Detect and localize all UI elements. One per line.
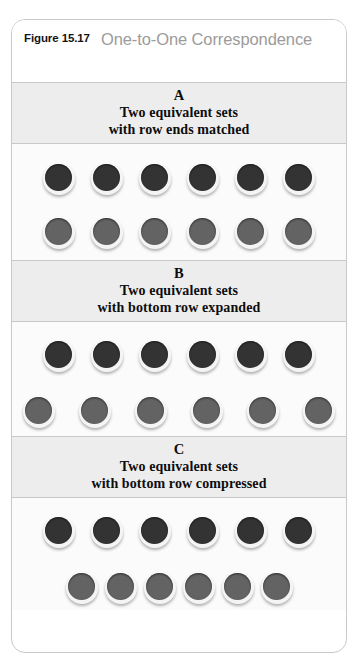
counter-token (187, 340, 219, 372)
figure-section-b: B Two equivalent sets with bottom row ex… (12, 260, 346, 436)
counter-token (91, 217, 123, 249)
counter-token (191, 396, 223, 428)
counter-token (187, 516, 219, 548)
counter-token (43, 516, 75, 548)
counter-token (43, 163, 75, 195)
section-a-tokens (12, 144, 346, 260)
section-b-caption-line1: Two equivalent sets (12, 282, 346, 299)
counter-token (139, 340, 171, 372)
section-c-tokens (12, 498, 346, 610)
section-c-top-row (12, 507, 346, 557)
counter-token (187, 163, 219, 195)
section-a-letter: A (12, 87, 346, 104)
section-a-bottom-row (12, 208, 346, 258)
counter-token (283, 217, 315, 249)
counter-token (91, 163, 123, 195)
counter-token (235, 340, 267, 372)
section-c-bottom-row (12, 563, 346, 613)
counter-token (261, 572, 293, 604)
section-a-top-row (12, 154, 346, 204)
counter-token (79, 396, 111, 428)
section-a-caption-line1: Two equivalent sets (12, 104, 346, 121)
counter-token (91, 340, 123, 372)
counter-token (235, 163, 267, 195)
counter-token (66, 572, 98, 604)
figure-section-c: C Two equivalent sets with bottom row co… (12, 436, 346, 610)
counter-token (43, 340, 75, 372)
counter-token (139, 163, 171, 195)
counter-token (139, 217, 171, 249)
section-c-caption-line1: Two equivalent sets (12, 458, 346, 475)
figure-title-bar: Figure 15.17 One-to-One Correspondence (12, 20, 346, 82)
counter-token (283, 163, 315, 195)
counter-token (144, 572, 176, 604)
counter-token (43, 217, 75, 249)
section-c-caption-line2: with bottom row compressed (12, 475, 346, 492)
counter-token (183, 572, 215, 604)
section-c-header: C Two equivalent sets with bottom row co… (12, 436, 346, 498)
counter-token (235, 516, 267, 548)
figure-card: Figure 15.17 One-to-One Correspondence A… (11, 19, 347, 653)
section-c-letter: C (12, 441, 346, 458)
section-a-header: A Two equivalent sets with row ends matc… (12, 82, 346, 144)
figure-section-a: A Two equivalent sets with row ends matc… (12, 82, 346, 260)
counter-token (247, 396, 279, 428)
counter-token (283, 516, 315, 548)
counter-token (187, 217, 219, 249)
section-b-top-row (12, 331, 346, 381)
section-a-caption-line2: with row ends matched (12, 121, 346, 138)
page-title: One-to-One Correspondence (101, 29, 312, 49)
counter-token (135, 396, 167, 428)
figure-number: Figure 15.17 (24, 29, 90, 44)
section-b-tokens (12, 322, 346, 436)
section-b-header: B Two equivalent sets with bottom row ex… (12, 260, 346, 322)
counter-token (23, 396, 55, 428)
counter-token (91, 516, 123, 548)
section-b-letter: B (12, 265, 346, 282)
counter-token (303, 396, 335, 428)
section-b-caption-line2: with bottom row expanded (12, 299, 346, 316)
section-b-bottom-row (12, 387, 346, 437)
counter-token (283, 340, 315, 372)
counter-token (235, 217, 267, 249)
counter-token (105, 572, 137, 604)
counter-token (139, 516, 171, 548)
counter-token (222, 572, 254, 604)
